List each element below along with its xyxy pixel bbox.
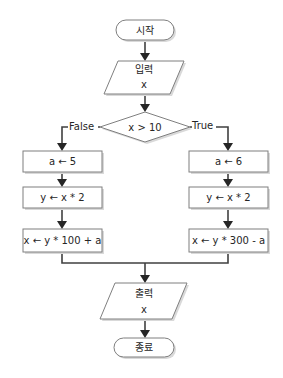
flowchart-canvas: 시작 입력 x x > 10 False True a ← 5 y ← x * … <box>0 0 283 378</box>
true-branch: a ← 6 y ← x * 2 x ← y * 300 - a <box>189 151 270 254</box>
true-step-1: a ← 6 <box>215 156 242 167</box>
false-step-1: a ← 5 <box>49 156 76 167</box>
true-edge-label: True <box>191 120 213 131</box>
output-title: 출력 <box>135 288 153 299</box>
decision-node: x > 10 <box>100 112 192 144</box>
output-var: x <box>141 304 147 315</box>
end-node: 종료 <box>114 338 176 359</box>
input-node: 입력 x <box>104 61 186 96</box>
false-step-2: y ← x * 2 <box>40 192 84 203</box>
end-label: 종료 <box>135 342 153 353</box>
false-edge-label: False <box>69 121 94 132</box>
input-var: x <box>141 79 147 90</box>
decision-label: x > 10 <box>128 122 161 133</box>
output-node: 출력 x <box>100 283 189 321</box>
false-step-3: x ← y * 100 + a <box>24 235 102 246</box>
false-branch: a ← 5 y ← x * 2 x ← y * 100 + a <box>23 151 104 254</box>
true-step-2: y ← x * 2 <box>206 192 250 203</box>
true-step-3: x ← y * 300 - a <box>192 235 265 246</box>
start-label: 시작 <box>136 25 154 36</box>
input-title: 입력 <box>135 63 153 75</box>
start-node: 시작 <box>116 20 176 42</box>
